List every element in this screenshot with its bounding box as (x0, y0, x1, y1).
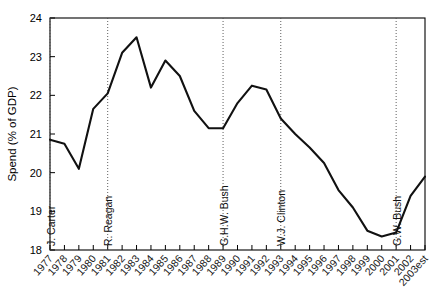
y-tick-label: 18 (30, 244, 42, 256)
president-annotation-label: R. Reagan (102, 196, 114, 246)
y-tick-label: 23 (30, 51, 42, 63)
chart-canvas: 18192021222324Spend (% of GDP)1977197819… (0, 0, 442, 303)
y-tick-label: 24 (30, 12, 42, 24)
president-annotation-label: G.H.W. Bush (218, 185, 230, 246)
y-tick-label: 19 (30, 205, 42, 217)
y-tick-label: 22 (30, 89, 42, 101)
president-annotation-label: W.J. Clinton (275, 190, 287, 246)
y-axis-title: Spend (% of GDP) (6, 86, 18, 181)
spending-share-of-gdp-chart: 18192021222324Spend (% of GDP)1977197819… (0, 0, 442, 303)
y-tick-label: 21 (30, 128, 42, 140)
president-annotation-label: J. Carter (45, 205, 57, 246)
y-tick-label: 20 (30, 167, 42, 179)
